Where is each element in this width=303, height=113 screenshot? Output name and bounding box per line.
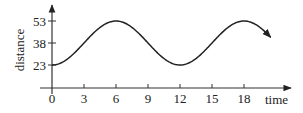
x-tick-label: 0	[49, 91, 56, 106]
x-tick-label: 18	[238, 91, 251, 106]
sinusoidal-line-chart: 233853 0369121518 distance time	[0, 0, 303, 113]
y-tick-label: 38	[33, 36, 46, 51]
y-tick-label: 53	[33, 14, 46, 29]
y-axis-label: distance	[12, 28, 27, 71]
distance-curve	[52, 21, 271, 65]
x-axis-label: time	[265, 92, 288, 107]
y-tick-label: 23	[33, 58, 46, 73]
x-tick-label: 3	[81, 91, 88, 106]
x-tick-label: 9	[145, 91, 152, 106]
x-tick-label: 12	[174, 91, 187, 106]
x-ticks: 0369121518	[49, 84, 251, 106]
x-tick-label: 6	[113, 91, 120, 106]
x-tick-label: 15	[206, 91, 219, 106]
